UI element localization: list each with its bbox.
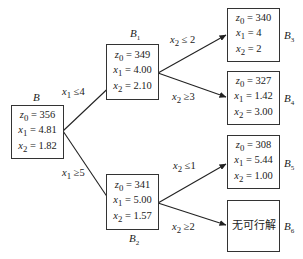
node-b4-z0: z0 = 327 bbox=[236, 75, 271, 91]
node-label-b1: B1 bbox=[130, 27, 140, 42]
node-b2-x2: x2 = 1.57 bbox=[113, 210, 152, 226]
node-b3-x1: x1 = 4 bbox=[228, 27, 261, 43]
node-label-b6: B6 bbox=[284, 220, 294, 235]
cond-b1-b4: x2 ≥3 bbox=[172, 91, 195, 105]
node-b4-x1: x1 = 1.42 bbox=[234, 90, 273, 106]
node-b6-infeasible: 无可行解 bbox=[232, 220, 276, 232]
node-b3-x2: x2 = 2 bbox=[228, 43, 261, 59]
node-b6: 无可行解 bbox=[227, 200, 280, 252]
cond-b-b1: x1 ≤4 bbox=[62, 86, 85, 100]
node-b2: z0 = 341 x1 = 5.00 x2 = 1.57 bbox=[106, 174, 159, 230]
node-b-z0: z0 = 356 bbox=[20, 109, 55, 125]
node-b5-x1: x1 = 5.44 bbox=[234, 154, 273, 170]
node-b2-x1: x1 = 5.00 bbox=[113, 194, 152, 210]
node-label-b5: B5 bbox=[284, 157, 294, 172]
cond-b1-b3: x2 ≤ 2 bbox=[170, 34, 195, 48]
node-b5: z0 = 308 x1 = 5.44 x2 = 1.00 bbox=[227, 135, 280, 189]
node-b4: z0 = 327 x1 = 1.42 x2 = 3.00 bbox=[227, 71, 280, 125]
cond-b-b2: x1 ≥5 bbox=[62, 167, 85, 181]
node-b1-x1: x1 = 4.00 bbox=[113, 64, 152, 80]
node-label-b4: B4 bbox=[284, 92, 294, 107]
node-b4-x2: x2 = 3.00 bbox=[234, 106, 273, 122]
node-b1-x2: x2 = 2.10 bbox=[113, 80, 152, 96]
node-b-x1: x1 = 4.81 bbox=[18, 124, 57, 140]
node-b3-z0: z0 = 340 bbox=[236, 12, 271, 28]
node-label-b: B bbox=[33, 91, 40, 103]
cond-b2-b5: x2 ≤1 bbox=[173, 160, 196, 174]
node-b3: z0 = 340 x1 = 4 x2 = 2 bbox=[227, 8, 280, 62]
node-b: z0 = 356 x1 = 4.81 x2 = 1.82 bbox=[11, 105, 64, 159]
node-b2-z0: z0 = 341 bbox=[115, 179, 150, 195]
node-b5-z0: z0 = 308 bbox=[236, 139, 271, 155]
node-b5-x2: x2 = 1.00 bbox=[234, 170, 273, 186]
node-b1: z0 = 349 x1 = 4.00 x2 = 2.10 bbox=[106, 44, 159, 100]
cond-b2-b6: x2 ≥2 bbox=[172, 221, 195, 235]
node-b1-z0: z0 = 349 bbox=[115, 49, 150, 65]
node-b-x2: x2 = 1.82 bbox=[18, 140, 57, 156]
node-label-b2: B2 bbox=[129, 232, 139, 247]
node-label-b3: B3 bbox=[284, 29, 294, 44]
